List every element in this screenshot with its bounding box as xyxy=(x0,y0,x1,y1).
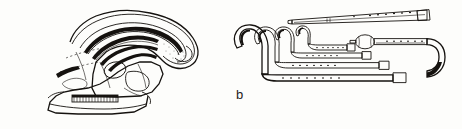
bladder-pipe xyxy=(350,35,445,77)
maxillary-dark-streak xyxy=(56,66,80,78)
parasaurolophus-skull-panel xyxy=(0,0,231,129)
crumhorn-bass-finger-holes xyxy=(282,77,340,79)
suture-line-3 xyxy=(124,88,142,96)
crumhorn-soprano-finger-holes xyxy=(316,47,344,48)
crumhorn-soprano-hook-shading xyxy=(299,28,303,34)
crumhorn-soprano-bell xyxy=(347,44,355,51)
antorbital-fenestra xyxy=(126,71,150,91)
tooth-row-shading xyxy=(72,95,118,97)
crumhorn-soprano xyxy=(296,26,355,51)
naris-opening xyxy=(63,78,88,89)
crumhorn-soprano-outline xyxy=(296,26,310,44)
crumhorn-soprano-body xyxy=(308,44,347,50)
crumhorn-tenor-body xyxy=(275,62,379,68)
straight-shawm xyxy=(288,10,430,24)
suture-line-4 xyxy=(138,64,146,88)
figure-container: Platerfpeif Krumbhörner b xyxy=(0,0,462,129)
crumhorn-bass-body xyxy=(262,74,393,81)
crumhorn-bass-outline xyxy=(234,25,268,74)
crumhorn-alto-bell xyxy=(362,52,371,60)
bladder-wind-cap-seam-left xyxy=(359,36,360,47)
crumhorn-tenor-outline xyxy=(255,27,280,62)
skull-illustration xyxy=(0,0,231,129)
crumhorn-alto xyxy=(275,27,371,59)
instrument-plate-illustration xyxy=(231,0,462,129)
crumhorn-alto-finger-holes xyxy=(306,55,338,56)
crumhorn-alto-body xyxy=(291,52,362,58)
crumhorn-tenor-bell xyxy=(379,61,389,69)
crumhorn-tenor-finger-holes xyxy=(292,65,336,66)
bladder-wind-cap-seam-right xyxy=(371,36,372,47)
figure-caption-letter: b xyxy=(236,88,243,101)
bladder-pipe-finger-holes xyxy=(386,41,423,42)
crumhorn-bass-bell xyxy=(393,73,406,83)
orbit xyxy=(102,60,127,81)
suture-line-1 xyxy=(76,52,86,80)
instruments-panel: Platerfpeif Krumbhörner xyxy=(231,0,462,129)
dentary-outline xyxy=(50,104,146,109)
shawm-body-outline xyxy=(292,10,427,24)
shawm-mouthpiece xyxy=(288,20,292,24)
crumhorn-alto-outline xyxy=(275,27,294,52)
